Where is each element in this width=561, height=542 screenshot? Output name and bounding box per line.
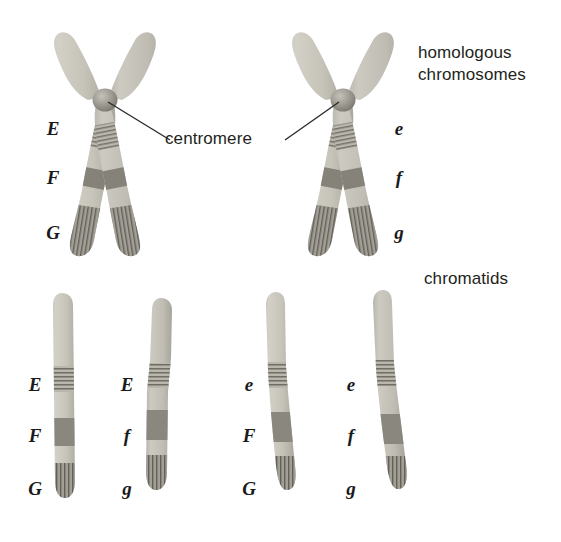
allele-chromatid2-f: f [116,425,138,447]
allele-chromatid3-e: e [238,374,260,396]
chromatid-3-body [260,286,300,496]
label-homologous-chromosomes: homologous chromosomes [418,42,526,87]
allele-chromatid1-E: E [24,374,46,396]
allele-right-e: e [388,118,410,140]
chromatid-1-body [48,288,82,503]
label-chromatids: chromatids [424,268,508,290]
chromatid-4-body [368,284,412,494]
allele-chromatid4-g: g [340,478,362,500]
centromere-knob-right [331,89,356,112]
allele-left-G: G [42,222,64,244]
allele-chromatid2-g: g [116,478,138,500]
allele-chromatid1-G: G [24,478,46,500]
allele-left-F: F [42,167,64,189]
allele-chromatid3-F: F [238,425,260,447]
allele-chromatid4-e: e [340,374,362,396]
allele-right-g: g [388,222,410,244]
chromatid-2-body [142,292,178,497]
allele-chromatid3-G: G [238,478,260,500]
allele-chromatid1-F: F [24,425,46,447]
allele-chromatid4-f: f [340,425,362,447]
allele-chromatid2-E: E [116,374,138,396]
allele-left-E: E [42,118,64,140]
centromere-leader-line-right [285,102,339,140]
label-centromere: centromere [165,128,252,150]
centromere-knob-left [93,89,118,112]
centromere-leader-line-left [108,102,170,140]
allele-right-f: f [388,167,410,189]
